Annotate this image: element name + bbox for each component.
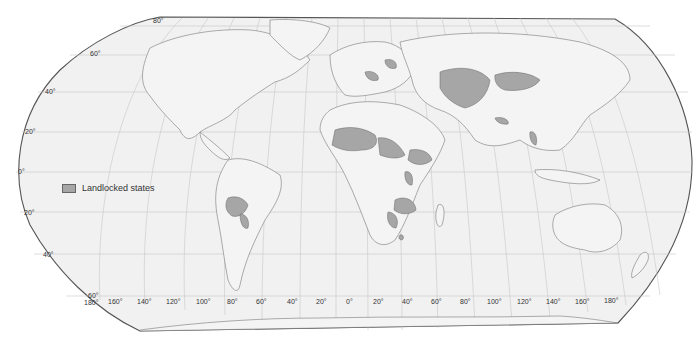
lat-label-20n: 20°	[25, 128, 36, 136]
lon-label-20w: 20°	[316, 298, 327, 306]
lat-label-80n: 80°	[153, 17, 164, 25]
lon-label-160e: 160°	[575, 298, 589, 306]
lon-label-120w: 120°	[166, 298, 180, 306]
lon-label-0: 0°	[346, 298, 353, 306]
lon-label-120e: 120°	[517, 298, 531, 306]
lat-label-60n: 60°	[90, 50, 101, 58]
map-legend: Landlocked states	[62, 183, 155, 193]
lesotho	[399, 235, 404, 240]
lat-label-equator: 0°	[18, 168, 25, 176]
lon-label-80e: 80°	[460, 298, 471, 306]
lon-label-100e: 100°	[487, 298, 501, 306]
landlocked-swatch	[62, 184, 76, 193]
lon-label-140e: 140°	[546, 298, 560, 306]
lon-label-60e: 60°	[431, 298, 442, 306]
lat-label-20s: 20°	[24, 209, 35, 217]
world-map	[0, 0, 697, 345]
lon-label-60w: 60°	[256, 298, 267, 306]
lon-label-80w: 80°	[227, 298, 238, 306]
lat-label-40s: 40°	[43, 251, 54, 259]
lon-label-40w: 40°	[287, 298, 298, 306]
lon-label-180e: 180°	[604, 297, 618, 305]
legend-label: Landlocked states	[82, 183, 155, 193]
lon-label-140w: 140°	[137, 298, 151, 306]
lon-label-20e: 20°	[373, 298, 384, 306]
lon-label-100w: 100°	[196, 298, 210, 306]
lat-label-40n: 40°	[45, 88, 56, 96]
lon-label-180w: 180°	[84, 299, 98, 307]
lon-label-160w: 160°	[108, 298, 122, 306]
lon-label-40e: 40°	[402, 298, 413, 306]
